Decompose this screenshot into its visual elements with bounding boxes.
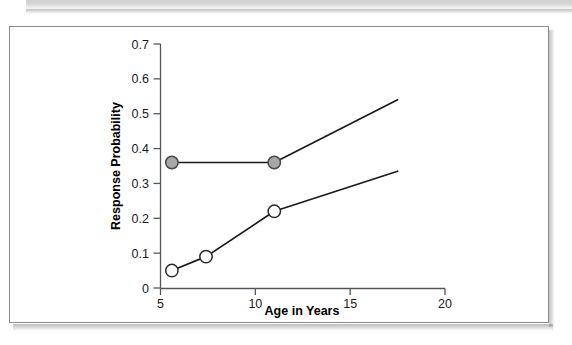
- x-tick-label: 15: [343, 297, 357, 311]
- y-tick-label: 0.1: [132, 247, 149, 261]
- data-point-lower-series: [200, 250, 212, 262]
- y-tick-label: 0.6: [132, 72, 149, 86]
- series-markers: [166, 156, 281, 276]
- y-axis-tick-labels: 00.10.20.30.40.50.60.7: [132, 38, 149, 296]
- y-tick-label: 0.4: [132, 142, 149, 156]
- y-tick-label: 0.5: [132, 107, 149, 121]
- y-axis-title: Response Probability: [109, 102, 123, 230]
- y-tick-label: 0.7: [132, 38, 149, 52]
- y-tick-label: 0: [142, 282, 149, 296]
- y-axis-ticks: [154, 44, 161, 288]
- x-axis-title: Age in Years: [265, 304, 340, 318]
- series-line-upper-series: [172, 100, 398, 163]
- data-point-upper-series: [268, 156, 280, 168]
- x-tick-label: 20: [438, 297, 452, 311]
- y-tick-label: 0.2: [132, 212, 149, 226]
- x-tick-label: 5: [157, 297, 164, 311]
- line-chart: 00.10.20.30.40.50.60.7 5101520 Response …: [0, 0, 572, 345]
- data-point-upper-series: [166, 156, 178, 168]
- data-point-lower-series: [166, 264, 178, 276]
- x-tick-label: 10: [248, 297, 262, 311]
- y-tick-label: 0.3: [132, 177, 149, 191]
- series-lines: [172, 100, 398, 271]
- x-axis-ticks: [161, 289, 446, 296]
- data-point-lower-series: [268, 205, 280, 217]
